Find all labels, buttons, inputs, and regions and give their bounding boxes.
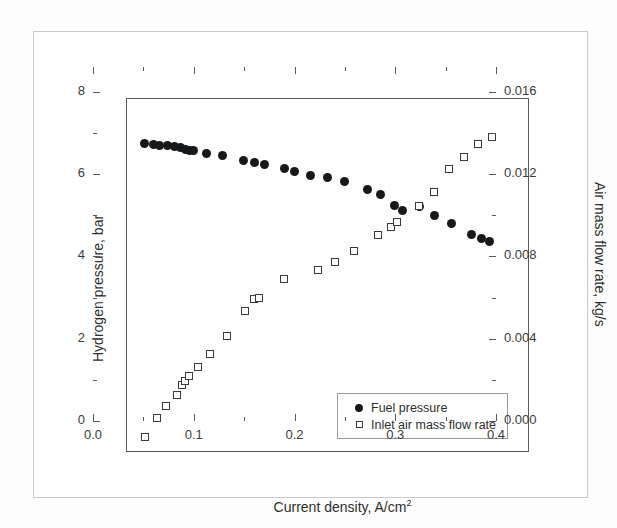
- data-point-inlet-air-mass-flow-rate: [415, 202, 423, 210]
- data-point-inlet-air-mass-flow-rate: [460, 153, 468, 161]
- x-axis-tick: [395, 414, 396, 421]
- y-axis-left-title: Hydrogen pressure, bar: [90, 215, 106, 362]
- data-point-inlet-air-mass-flow-rate: [223, 332, 231, 340]
- data-point-fuel-pressure: [280, 164, 289, 173]
- data-point-fuel-pressure: [306, 171, 315, 180]
- data-point-inlet-air-mass-flow-rate: [173, 391, 181, 399]
- data-point-fuel-pressure: [398, 206, 407, 215]
- y-axis-left-tick-label: 8: [51, 83, 85, 98]
- x-axis-top-tick: [194, 67, 195, 74]
- figure-root: Hydrogen pressure, bar Air mass flow rat…: [0, 0, 617, 528]
- x-axis-tick-label: 0.4: [474, 427, 518, 442]
- y-axis-right-minor-tick: [492, 380, 496, 381]
- x-axis-tick: [496, 414, 497, 421]
- x-axis-title-text: Current density, A/cm: [274, 499, 407, 515]
- x-axis-tick: [194, 414, 195, 421]
- data-point-fuel-pressure: [202, 149, 211, 158]
- x-axis-top-minor-tick: [446, 67, 447, 71]
- y-axis-left-tick: [93, 421, 100, 422]
- x-axis-tick: [295, 414, 296, 421]
- scan-page-border: Hydrogen pressure, bar Air mass flow rat…: [33, 31, 588, 498]
- data-point-inlet-air-mass-flow-rate: [430, 188, 438, 196]
- x-axis-top-minor-tick: [143, 67, 144, 71]
- data-point-fuel-pressure: [323, 173, 332, 182]
- data-point-inlet-air-mass-flow-rate: [331, 258, 339, 266]
- data-point-fuel-pressure: [363, 185, 372, 194]
- data-point-fuel-pressure: [239, 156, 248, 165]
- data-point-inlet-air-mass-flow-rate: [162, 402, 170, 410]
- x-axis-tick: [93, 414, 94, 421]
- y-axis-left-minor-tick: [93, 380, 97, 381]
- y-axis-right-minor-tick: [492, 215, 496, 216]
- x-axis-tick-label: 0.0: [71, 427, 115, 442]
- data-point-fuel-pressure: [218, 151, 227, 160]
- data-point-inlet-air-mass-flow-rate: [185, 372, 193, 380]
- data-point-inlet-air-mass-flow-rate: [350, 247, 358, 255]
- x-axis-minor-tick: [143, 417, 144, 421]
- x-axis-tick-label: 0.2: [273, 427, 317, 442]
- data-point-fuel-pressure: [430, 211, 439, 220]
- x-axis-top-tick: [496, 67, 497, 74]
- x-axis-minor-tick: [244, 417, 245, 421]
- y-axis-right-tick-label: 0.008: [504, 247, 552, 262]
- x-axis-top-minor-tick: [345, 67, 346, 71]
- data-point-inlet-air-mass-flow-rate: [280, 275, 288, 283]
- y-axis-left-tick: [93, 92, 100, 93]
- data-point-inlet-air-mass-flow-rate: [255, 294, 263, 302]
- data-point-inlet-air-mass-flow-rate: [393, 218, 401, 226]
- open-square-icon: [347, 421, 371, 428]
- data-point-inlet-air-mass-flow-rate: [374, 231, 382, 239]
- y-axis-left-minor-tick: [93, 215, 97, 216]
- x-axis-top-minor-tick: [244, 67, 245, 71]
- x-axis-top-tick: [395, 67, 396, 74]
- y-axis-left-tick: [93, 256, 100, 257]
- data-point-inlet-air-mass-flow-rate: [194, 363, 202, 371]
- data-point-fuel-pressure: [376, 190, 385, 199]
- data-point-inlet-air-mass-flow-rate: [153, 414, 161, 422]
- y-axis-right-tick: [489, 92, 496, 93]
- legend-item-fuel-pressure: Fuel pressure: [347, 399, 496, 416]
- data-point-fuel-pressure: [290, 167, 299, 176]
- data-point-fuel-pressure: [189, 146, 198, 155]
- data-point-fuel-pressure: [140, 139, 149, 148]
- x-axis-top-tick: [295, 67, 296, 74]
- y-axis-right-tick-label: 0.016: [504, 83, 552, 98]
- legend-label: Fuel pressure: [371, 401, 447, 415]
- data-point-fuel-pressure: [485, 237, 494, 246]
- data-point-inlet-air-mass-flow-rate: [488, 133, 496, 141]
- y-axis-right-tick: [489, 421, 496, 422]
- x-axis-top-tick: [93, 67, 94, 74]
- data-point-inlet-air-mass-flow-rate: [445, 165, 453, 173]
- y-axis-left-tick-label: 2: [51, 330, 85, 345]
- y-axis-left-tick: [93, 339, 100, 340]
- data-point-fuel-pressure: [467, 230, 476, 239]
- y-axis-left-tick: [93, 174, 100, 175]
- x-axis-minor-tick: [446, 417, 447, 421]
- data-point-inlet-air-mass-flow-rate: [474, 140, 482, 148]
- x-axis-tick-label: 0.3: [373, 427, 417, 442]
- y-axis-left-minor-tick: [93, 298, 97, 299]
- y-axis-right-tick-label: 0.012: [504, 165, 552, 180]
- y-axis-right-tick: [489, 339, 496, 340]
- y-axis-left-tick-label: 6: [51, 165, 85, 180]
- data-point-fuel-pressure: [447, 219, 456, 228]
- data-point-inlet-air-mass-flow-rate: [141, 433, 149, 441]
- x-axis-title: Current density, A/cm2: [34, 498, 617, 515]
- y-axis-right-minor-tick: [492, 298, 496, 299]
- y-axis-right-minor-tick: [492, 133, 496, 134]
- y-axis-right-tick: [489, 256, 496, 257]
- x-axis-title-superscript: 2: [406, 498, 411, 508]
- y-axis-right-tick-label: 0.000: [504, 412, 552, 427]
- y-axis-right-tick: [489, 174, 496, 175]
- data-point-inlet-air-mass-flow-rate: [241, 307, 249, 315]
- y-axis-left-tick-label: 0: [51, 412, 85, 427]
- y-axis-right-tick-label: 0.004: [504, 330, 552, 345]
- y-axis-left-minor-tick: [93, 133, 97, 134]
- data-point-fuel-pressure: [340, 177, 349, 186]
- x-axis-tick-label: 0.1: [172, 427, 216, 442]
- data-point-inlet-air-mass-flow-rate: [314, 266, 322, 274]
- x-axis-minor-tick: [345, 417, 346, 421]
- data-point-fuel-pressure: [250, 158, 259, 167]
- y-axis-left-tick-label: 4: [51, 247, 85, 262]
- data-point-fuel-pressure: [260, 160, 269, 169]
